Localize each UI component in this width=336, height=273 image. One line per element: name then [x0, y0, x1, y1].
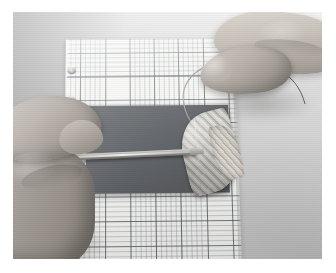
left-hand — [13, 96, 125, 259]
screenshot-root — [0, 0, 336, 273]
photograph — [13, 12, 322, 259]
right-hand — [196, 12, 322, 136]
